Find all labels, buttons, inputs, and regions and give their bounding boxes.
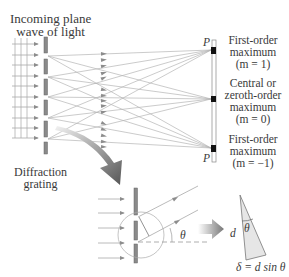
maximum-m0-mark <box>211 96 216 102</box>
inset-grating <box>134 188 138 263</box>
first-order-neg-max-label: First-order maximum (m = −1) <box>218 133 288 169</box>
central-max-label: Central or zeroth-order maximum (m = 0) <box>218 77 288 125</box>
d-label: d <box>230 227 236 239</box>
inset-incoming-rays <box>98 199 124 258</box>
small-arrow <box>198 219 224 239</box>
incoming-rays <box>12 44 38 138</box>
grating <box>44 37 48 154</box>
path-difference-line <box>139 217 149 236</box>
theta-label-triangle: θ <box>244 222 250 234</box>
incoming-wave-label: Incoming plane wave of light <box>10 12 91 38</box>
ray-arrowheads <box>100 52 107 149</box>
inset-circle <box>118 212 164 258</box>
inset-diffracted-rays <box>138 186 198 242</box>
first-order-max-label: First-order maximum (m = 1) <box>220 34 286 70</box>
wavefront-lines <box>15 38 27 138</box>
theta-arc <box>170 228 172 242</box>
grating-label: Diffraction grating <box>14 166 67 190</box>
maximum-mneg1-mark <box>211 145 216 152</box>
path-difference-formula: δ = d sin θ <box>236 261 285 273</box>
point-p-bottom: P <box>203 152 210 164</box>
point-p-top: P <box>203 36 210 48</box>
theta-label-inset: θ <box>180 229 186 241</box>
maximum-m1-mark <box>211 47 216 54</box>
